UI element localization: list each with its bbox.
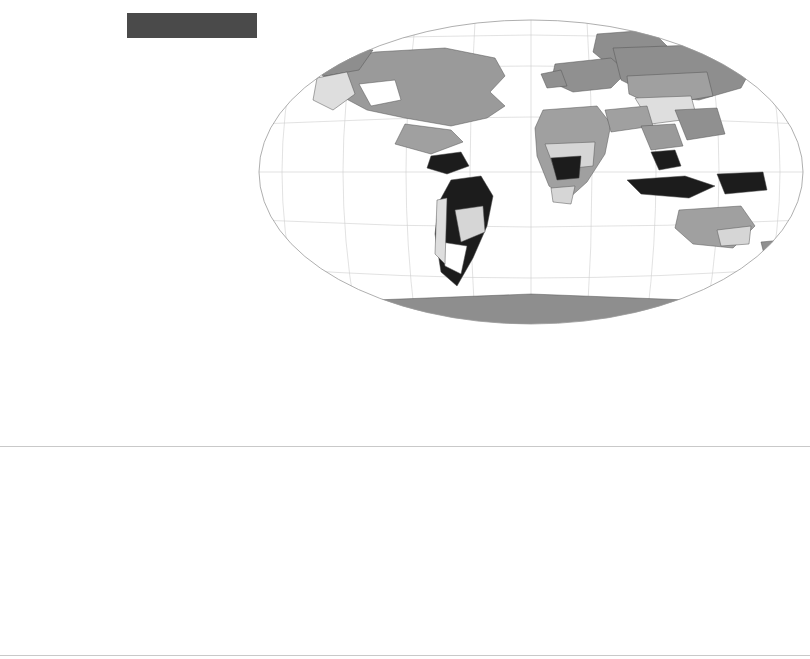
divider-bottom — [0, 655, 810, 656]
world-climate-map[interactable] — [255, 14, 807, 344]
map-svg — [255, 14, 807, 344]
divider-top — [0, 446, 810, 447]
page-title-banner — [127, 13, 257, 38]
climate-legend — [276, 352, 801, 436]
